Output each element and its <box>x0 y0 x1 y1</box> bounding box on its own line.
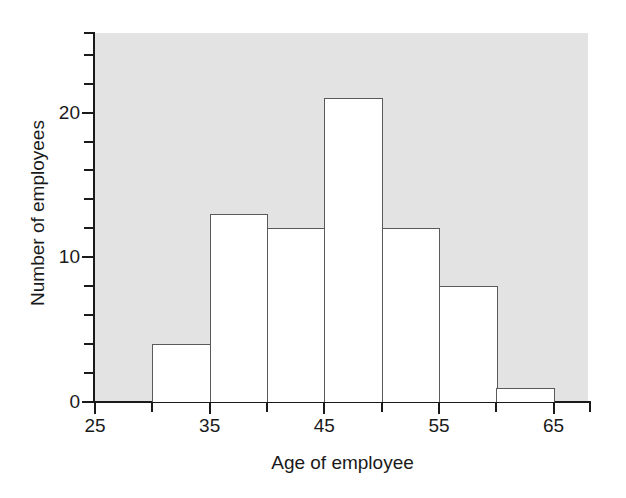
x-axis-tick-major <box>94 403 96 414</box>
y-axis-tick-minor <box>84 343 93 345</box>
x-axis-tick-minor <box>151 403 153 412</box>
histogram-bar <box>267 228 326 402</box>
y-axis-tick-minor <box>84 83 93 85</box>
y-axis-tick-minor <box>84 198 93 200</box>
x-axis-tick-minor <box>495 403 497 412</box>
y-axis-title: Number of employees <box>16 18 60 408</box>
histogram-bar <box>496 388 555 402</box>
y-axis-tick-major <box>82 256 93 258</box>
x-axis-tick-label: 45 <box>302 416 346 435</box>
histogram-bar <box>439 286 498 402</box>
histogram-bar <box>382 228 441 402</box>
y-axis-tick-minor <box>84 372 93 374</box>
y-axis-tick-minor <box>84 285 93 287</box>
histogram-figure: 010202535455565 Number of employees Age … <box>0 0 626 498</box>
y-axis-line <box>93 32 95 403</box>
histogram-bar <box>210 214 269 402</box>
y-axis-tick-minor <box>84 227 93 229</box>
x-axis-tick-major <box>209 403 211 414</box>
x-axis-tick-major <box>438 403 440 414</box>
y-axis-tick-major <box>82 112 93 114</box>
x-axis-tick-label: 25 <box>73 416 117 435</box>
x-axis-right-cap <box>589 403 591 412</box>
histogram-bar <box>152 344 211 402</box>
x-axis-tick-label: 65 <box>532 416 576 435</box>
x-axis-tick-major <box>323 403 325 414</box>
x-axis-tick-minor <box>266 403 268 412</box>
histogram-bar <box>324 98 383 402</box>
y-axis-tick-minor <box>84 141 93 143</box>
x-axis-title: Age of employee <box>95 452 590 474</box>
y-axis-tick-major <box>82 401 93 403</box>
y-axis-tick-minor <box>84 54 93 56</box>
x-axis-tick-label: 35 <box>188 416 232 435</box>
y-axis-top-cap <box>84 32 93 34</box>
y-axis-tick-minor <box>84 314 93 316</box>
y-axis-tick-minor <box>84 169 93 171</box>
x-axis-tick-label: 55 <box>417 416 461 435</box>
x-axis-tick-minor <box>381 403 383 412</box>
x-axis-tick-major <box>553 403 555 414</box>
